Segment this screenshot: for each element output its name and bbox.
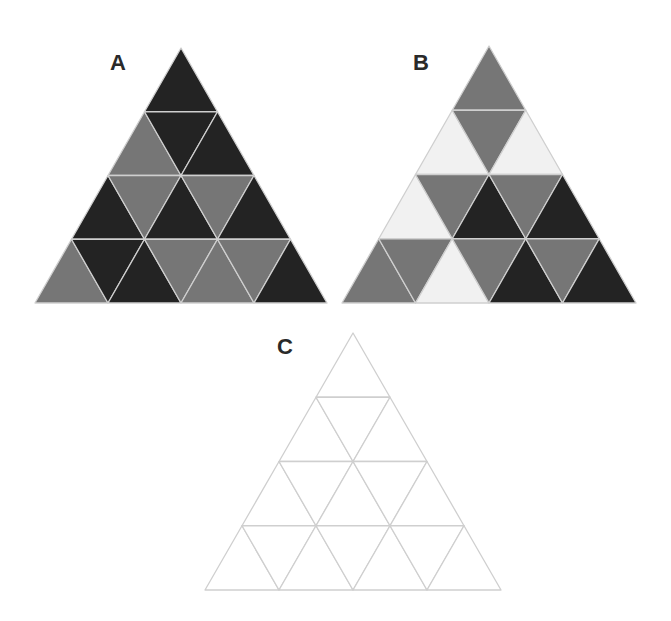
triangle-cell-a-r0-c0: [145, 48, 218, 112]
triangle-cell-b-r0-c0: [452, 46, 526, 110]
panel-c-empty-triangle-grid[interactable]: [205, 333, 501, 590]
panel-b-triangle-grid: [342, 46, 636, 303]
triangle-puzzle-canvas: [0, 0, 671, 621]
panel-a-triangle-grid: [35, 48, 327, 303]
triangle-cell-c-r0-c0[interactable]: [316, 333, 390, 397]
